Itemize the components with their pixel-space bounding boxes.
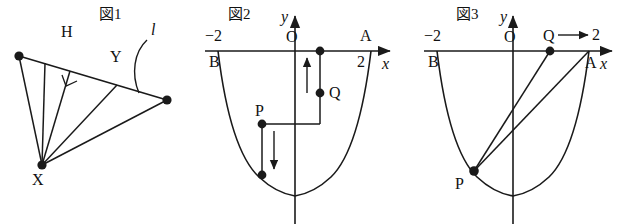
fig3-segment-p-q: [474, 51, 550, 171]
fig2-tick-neg2: −2: [205, 28, 222, 44]
fig2-label-q: Q: [329, 85, 341, 101]
fig1-label-line-l: l: [151, 22, 155, 38]
fig1-line-l: [19, 56, 167, 100]
fig3-dot-p: [469, 166, 479, 176]
fig2-y-axis-label: y: [281, 9, 288, 25]
fig1-ray-x-to-left-end: [19, 56, 42, 165]
fig1-right-angle-mark: [62, 75, 77, 86]
fig1-label-x: X: [32, 172, 44, 188]
figures-root: 図1 H Y l X 図2 y x O −2 B A 2 P Q 図3 y x …: [0, 0, 627, 224]
figure-1-drawing: [14, 40, 171, 170]
fig2-label-origin: O: [286, 29, 298, 45]
fig2-dot-q: [316, 89, 325, 98]
fig1-title: 図1: [99, 7, 122, 22]
fig2-tick-2: 2: [357, 54, 365, 70]
fig2-x-axis-label: x: [382, 56, 389, 72]
fig2-label-p: P: [255, 103, 264, 119]
fig3-segment-p-a: [474, 51, 589, 171]
figure-3-drawing: [424, 16, 612, 224]
fig3-y-axis-label: y: [500, 9, 507, 25]
fig2-dot-q-on-axis: [316, 47, 325, 56]
fig2-label-a: A: [360, 28, 372, 44]
fig1-ray-x-to-a1: [42, 63, 45, 165]
fig1-label-h: H: [61, 24, 73, 40]
fig1-dot-left-end: [14, 51, 23, 60]
fig3-label-q: Q: [543, 28, 555, 44]
fig2-dot-p: [258, 120, 267, 129]
fig3-label-p: P: [455, 176, 464, 192]
fig3-label-origin: O: [504, 29, 516, 45]
fig2-dot-p-on-parabola: [258, 171, 267, 180]
fig1-dot-right-end: [162, 95, 171, 104]
figure-2-drawing: [205, 16, 390, 224]
fig3-x-axis-label: x: [600, 56, 607, 72]
fig3-label-a: A: [585, 55, 597, 71]
fig1-dot-x: [37, 160, 46, 169]
fig3-tick-neg2: −2: [424, 28, 441, 44]
fig3-label-b: B: [428, 54, 439, 70]
figures-drawing-canvas: [0, 0, 627, 224]
fig3-dot-q: [546, 47, 555, 56]
fig1-label-y: Y: [110, 49, 122, 65]
fig1-arc-at-line-l: [135, 40, 147, 93]
fig3-tick-2: 2: [592, 27, 600, 43]
fig2-label-b: B: [209, 54, 220, 70]
fig1-ray-x-to-right-end: [42, 100, 167, 165]
fig3-title: 図3: [456, 7, 479, 22]
fig2-title: 図2: [228, 7, 251, 22]
